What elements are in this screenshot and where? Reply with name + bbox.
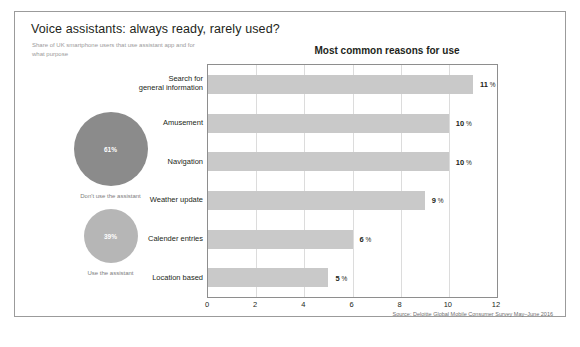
x-tick-label: 12 — [492, 300, 500, 309]
bar — [208, 230, 353, 249]
category-label-line: Location based — [123, 272, 203, 281]
bar-value-label: 10 % — [456, 157, 472, 166]
chart-card: Voice assistants: always ready, rarely u… — [14, 11, 566, 317]
bar — [208, 75, 473, 94]
bar — [208, 152, 449, 171]
category-label-line: Search for — [123, 74, 203, 83]
source-note: Source: Deloitte Global Mobile Consumer … — [393, 311, 554, 317]
category-label-line: general information — [123, 83, 203, 92]
category-label: Amusement — [123, 118, 203, 127]
page-title: Voice assistants: always ready, rarely u… — [31, 22, 280, 36]
bar-value-label: 11 % — [480, 80, 496, 89]
bar-value-label: 6 % — [360, 235, 372, 244]
category-label: Search forgeneral information — [123, 74, 203, 92]
bar-series: 11 %10 %10 %9 %6 %5 % — [208, 65, 497, 297]
x-tick-label: 4 — [301, 300, 305, 309]
bar-row: 11 % — [208, 75, 497, 94]
bar-row: 9 % — [208, 191, 497, 210]
bar-row: 6 % — [208, 230, 497, 249]
category-label: Calender entries — [123, 234, 203, 243]
x-tick-label: 0 — [205, 300, 209, 309]
bar-value-label: 10 % — [456, 119, 472, 128]
bar-value-label: 5 % — [335, 273, 347, 282]
bar — [208, 114, 449, 133]
category-label: Location based — [123, 272, 203, 281]
category-label-line: Navigation — [123, 156, 203, 165]
bar-row: 10 % — [208, 114, 497, 133]
category-label-line: Weather update — [123, 195, 203, 204]
bar — [208, 191, 425, 210]
bar-row: 10 % — [208, 152, 497, 171]
category-labels: Search forgeneral informationAmusementNa… — [123, 64, 203, 298]
x-tick-label: 2 — [253, 300, 257, 309]
category-label: Weather update — [123, 195, 203, 204]
chart-title: Most common reasons for use — [212, 45, 562, 56]
bar-value-label: 9 % — [432, 196, 444, 205]
page-subtitle: Share of UK smartphone users that use as… — [32, 41, 207, 58]
x-tick-label: 6 — [349, 300, 353, 309]
x-tick-label: 8 — [398, 300, 402, 309]
bar — [208, 268, 328, 287]
x-tick-label: 10 — [444, 300, 452, 309]
category-label-line: Calender entries — [123, 234, 203, 243]
bar-row: 5 % — [208, 268, 497, 287]
category-label: Navigation — [123, 156, 203, 165]
category-label-line: Amusement — [123, 118, 203, 127]
